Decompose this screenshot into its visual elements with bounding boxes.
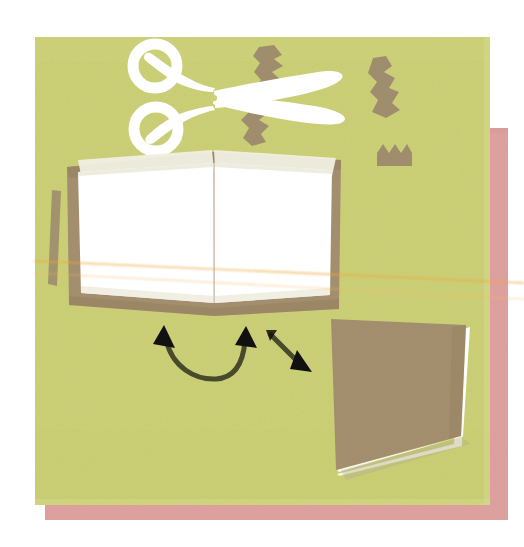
crown-scrap [377,144,412,166]
scissors-pivot-icon [211,95,217,101]
green-panel-edge-light [484,37,490,505]
open-book [67,150,341,316]
illustration-artboard [0,0,524,547]
open-book-page-right [215,163,332,303]
green-panel-edge-light-bottom [35,499,490,505]
illustration-scene: Craft instruction illustration: cut and … [0,0,524,547]
